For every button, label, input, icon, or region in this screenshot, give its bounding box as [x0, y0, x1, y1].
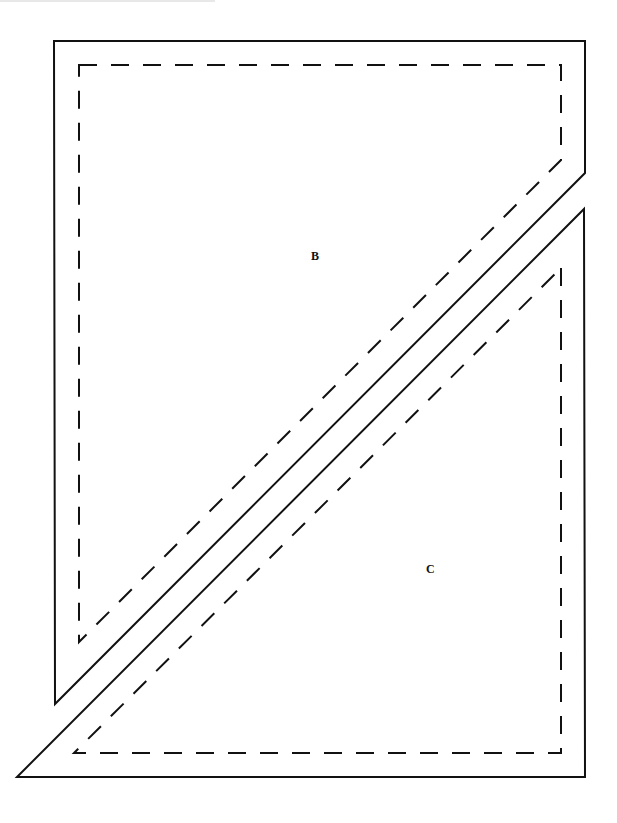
piece-c-cut-line [17, 209, 585, 777]
piece-b-cut-line [54, 41, 585, 704]
piece-c-label: C [426, 562, 435, 577]
piece-b-seam-line [79, 65, 561, 642]
piece-c-seam-line [74, 268, 561, 753]
piece-b-label: B [311, 249, 319, 264]
piece-b [54, 41, 585, 704]
template-diagram [0, 0, 617, 823]
piece-c [17, 209, 585, 777]
